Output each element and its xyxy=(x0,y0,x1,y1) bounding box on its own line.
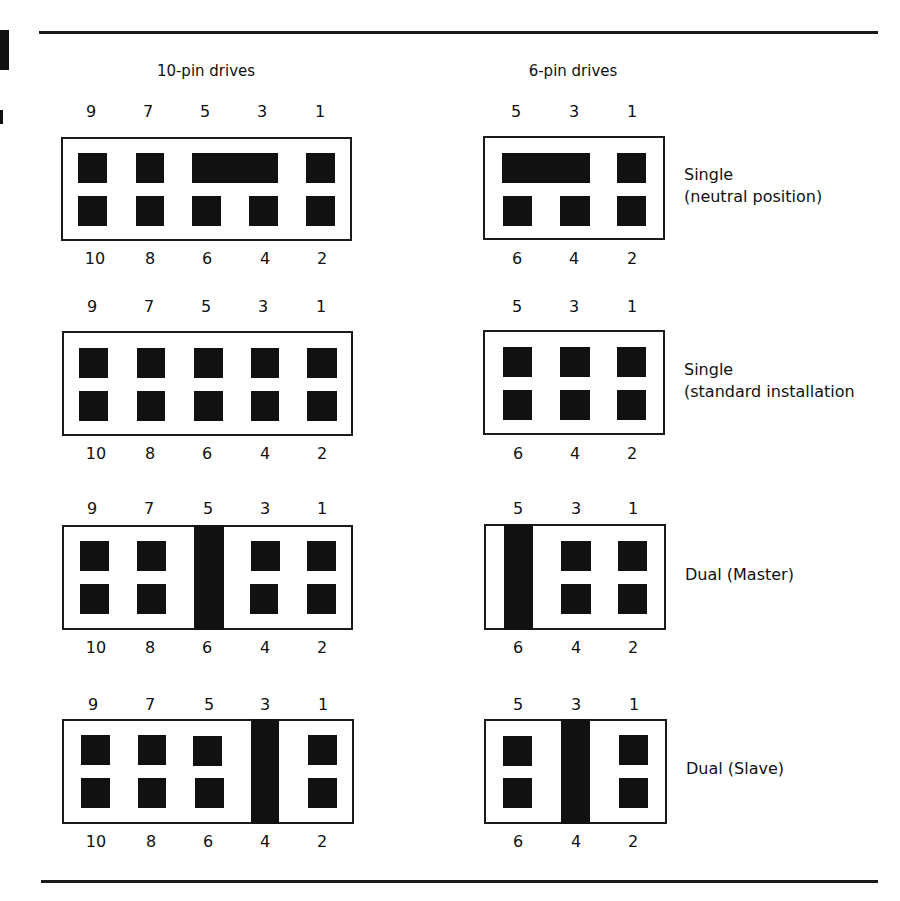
pin-number: 2 xyxy=(317,638,327,657)
pin-number: 5 xyxy=(204,695,214,714)
pin-number: 8 xyxy=(145,249,155,268)
pin-5 xyxy=(193,736,222,766)
config-label-line1: Dual (Master) xyxy=(685,564,794,586)
connector-6-pin xyxy=(484,524,666,630)
pin-3 xyxy=(251,348,279,378)
pin-number: 4 xyxy=(260,249,270,268)
pin-9 xyxy=(79,348,108,378)
pin-number: 10 xyxy=(85,249,105,268)
config-label-line1: Dual (Slave) xyxy=(686,758,784,780)
pin-number: 2 xyxy=(317,832,327,851)
pin-number: 5 xyxy=(511,102,521,121)
pin-9 xyxy=(80,541,109,571)
pin-4 xyxy=(249,196,278,226)
bottom-rule xyxy=(41,880,878,883)
pin-number: 6 xyxy=(512,249,522,268)
pin-6 xyxy=(195,778,224,808)
pin-number: 5 xyxy=(513,499,523,518)
pin-3 xyxy=(560,347,590,377)
jumper-5-3 xyxy=(192,153,278,183)
config-label-line1: Single xyxy=(684,359,855,381)
pin-8 xyxy=(137,391,165,421)
connector-10-pin xyxy=(61,137,352,241)
pin-number: 3 xyxy=(260,695,270,714)
top-rule xyxy=(39,31,878,34)
jumper-5-6 xyxy=(194,525,224,630)
pin-2 xyxy=(618,584,647,614)
pin-7 xyxy=(138,735,166,765)
pin-number: 4 xyxy=(260,444,270,463)
pin-9 xyxy=(78,153,107,183)
connector-6-pin xyxy=(483,330,665,435)
pin-1 xyxy=(617,153,646,183)
pin-number: 7 xyxy=(144,499,154,518)
pin-number: 4 xyxy=(260,638,270,657)
pin-number: 7 xyxy=(143,102,153,121)
header-6-pin: 6-pin drives xyxy=(529,62,618,80)
pin-4 xyxy=(561,584,591,614)
pin-number: 9 xyxy=(87,499,97,518)
pin-6 xyxy=(503,778,532,808)
pin-5 xyxy=(503,736,532,766)
pin-number: 6 xyxy=(202,249,212,268)
pin-6 xyxy=(192,196,221,226)
pin-number: 2 xyxy=(317,444,327,463)
pin-number: 7 xyxy=(145,695,155,714)
connector-6-pin xyxy=(484,719,667,824)
pin-3 xyxy=(251,541,280,571)
pin-number: 2 xyxy=(627,444,637,463)
pin-number: 9 xyxy=(88,695,98,714)
pin-number: 6 xyxy=(513,638,523,657)
pin-number: 2 xyxy=(627,249,637,268)
pin-number: 2 xyxy=(317,249,327,268)
pin-1 xyxy=(619,735,648,765)
connector-10-pin xyxy=(62,719,354,824)
header-10-pin: 10-pin drives xyxy=(157,62,255,80)
pin-number: 1 xyxy=(629,695,639,714)
jumper-5-6 xyxy=(504,524,533,630)
pin-8 xyxy=(138,778,166,808)
pin-number: 10 xyxy=(86,638,106,657)
pin-number: 6 xyxy=(513,832,523,851)
config-label: Dual (Master) xyxy=(685,564,794,586)
pin-4 xyxy=(560,196,590,226)
config-label-line2: (neutral position) xyxy=(684,186,822,208)
pin-1 xyxy=(308,735,337,765)
pin-9 xyxy=(81,735,110,765)
pin-10 xyxy=(80,584,109,614)
pin-number: 4 xyxy=(260,832,270,851)
pin-number: 9 xyxy=(86,102,96,121)
config-label: Single (neutral position) xyxy=(684,164,822,208)
pin-10 xyxy=(78,196,107,226)
pin-3 xyxy=(561,541,591,571)
pin-number: 5 xyxy=(513,695,523,714)
config-label-line1: Single xyxy=(684,164,822,186)
pin-2 xyxy=(617,196,646,226)
jumper-3-4 xyxy=(561,719,590,824)
pin-2 xyxy=(308,778,337,808)
pin-7 xyxy=(137,541,166,571)
pin-8 xyxy=(137,584,166,614)
connector-6-pin xyxy=(483,136,665,240)
pin-number: 1 xyxy=(316,297,326,316)
pin-number: 1 xyxy=(627,102,637,121)
pin-number: 8 xyxy=(145,444,155,463)
pin-7 xyxy=(137,348,165,378)
config-label-line2: (standard installation xyxy=(684,381,855,403)
pin-number: 4 xyxy=(571,832,581,851)
pin-number: 1 xyxy=(317,499,327,518)
pin-number: 2 xyxy=(628,832,638,851)
connector-10-pin xyxy=(62,331,353,436)
pin-number: 4 xyxy=(570,444,580,463)
pin-number: 9 xyxy=(87,297,97,316)
pin-1 xyxy=(618,541,647,571)
pin-number: 3 xyxy=(257,102,267,121)
scan-edge-artifact xyxy=(0,110,3,124)
pin-number: 1 xyxy=(318,695,328,714)
pin-5 xyxy=(503,347,532,377)
pin-10 xyxy=(81,778,110,808)
pin-number: 1 xyxy=(315,102,325,121)
config-label: Single (standard installation xyxy=(684,359,855,403)
pin-number: 6 xyxy=(202,638,212,657)
pin-4 xyxy=(250,584,278,614)
